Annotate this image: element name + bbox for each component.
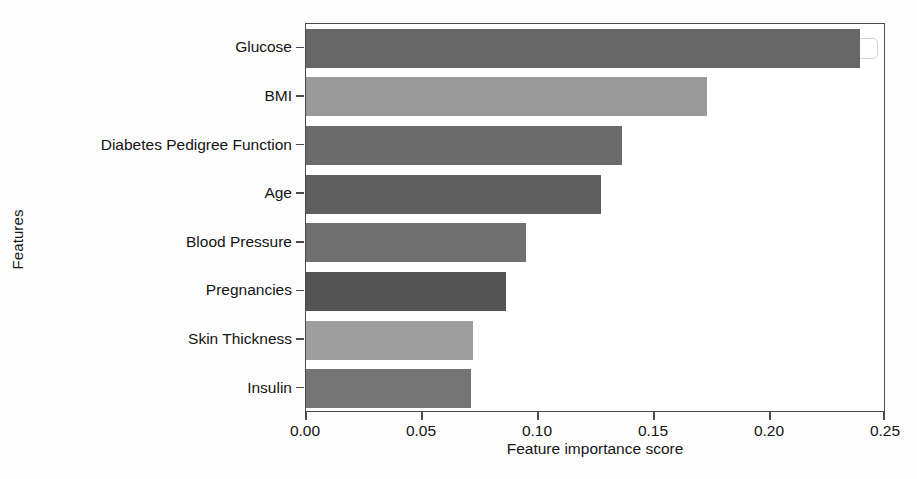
bar bbox=[306, 126, 622, 165]
bar bbox=[306, 77, 707, 116]
x-axis-tick-mark bbox=[305, 412, 307, 420]
x-axis-tick-label: 0.25 bbox=[870, 422, 900, 440]
bar bbox=[306, 321, 473, 360]
y-axis-tick-mark bbox=[296, 290, 304, 292]
y-axis-tick-mark bbox=[296, 192, 304, 194]
y-axis-tick-mark bbox=[296, 95, 304, 97]
y-axis-tick-mark bbox=[296, 47, 304, 49]
y-axis-tick-label: Diabetes Pedigree Function bbox=[40, 135, 292, 155]
y-axis-tick-label: Glucose bbox=[40, 37, 292, 57]
y-axis-tick-label: Pregnancies bbox=[40, 280, 292, 300]
y-axis-tick-mark bbox=[296, 144, 304, 146]
y-axis-tick-marks bbox=[296, 23, 305, 412]
y-axis-tick-label: BMI bbox=[40, 86, 292, 106]
y-axis-tick-label: Blood Pressure bbox=[40, 232, 292, 252]
y-axis-tick-label: Insulin bbox=[40, 378, 292, 398]
bar bbox=[306, 175, 601, 214]
y-axis-tick-label: Skin Thickness bbox=[40, 329, 292, 349]
bar bbox=[306, 223, 526, 262]
x-axis-tick-mark bbox=[421, 412, 423, 420]
y-axis-tick-mark bbox=[296, 338, 304, 340]
x-axis-ticks: 0.000.050.100.150.200.25 bbox=[305, 412, 885, 422]
bar bbox=[306, 29, 860, 68]
x-axis-tick-mark bbox=[537, 412, 539, 420]
x-axis-tick-label: 0.05 bbox=[406, 422, 436, 440]
x-axis-tick-mark bbox=[769, 412, 771, 420]
x-axis-tick-label: 0.20 bbox=[754, 422, 784, 440]
y-axis-tick-labels: GlucoseBMIDiabetes Pedigree FunctionAgeB… bbox=[40, 23, 292, 412]
x-axis-tick-mark bbox=[653, 412, 655, 420]
x-axis-tick-mark bbox=[883, 412, 885, 420]
x-axis-tick-label: 0.15 bbox=[638, 422, 668, 440]
plot-area bbox=[305, 23, 885, 412]
bar bbox=[306, 272, 506, 311]
x-axis-tick-label: 0.10 bbox=[522, 422, 552, 440]
y-axis-title: Features bbox=[0, 0, 34, 479]
y-axis-tick-label: Age bbox=[40, 183, 292, 203]
y-axis-tick-mark bbox=[296, 241, 304, 243]
x-axis-tick-label: 0.00 bbox=[290, 422, 320, 440]
bar-chart-figure: Features GlucoseBMIDiabetes Pedigree Fun… bbox=[0, 0, 917, 479]
y-axis-tick-mark bbox=[296, 387, 304, 389]
x-axis-title: Feature importance score bbox=[305, 440, 885, 458]
bar bbox=[306, 369, 471, 408]
